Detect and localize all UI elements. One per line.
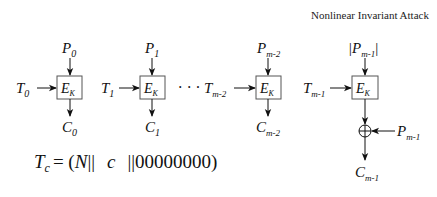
tweak-label: Tm-2 bbox=[204, 80, 227, 99]
block-m-2: Pm-2 Tm-2 EK Cm-2 bbox=[204, 40, 281, 138]
block-0: P0 T0 EK C0 bbox=[16, 40, 82, 138]
tweak-formula: Tc= (N||c||00000000) bbox=[34, 151, 217, 175]
xor-icon bbox=[359, 125, 371, 137]
block-1: P1 T1 EK C1 bbox=[101, 40, 165, 138]
ciphertext-label: C1 bbox=[145, 119, 160, 138]
ciphertext-label: Cm-2 bbox=[256, 119, 281, 138]
diagram-title: Nonlinear Invariant Attack bbox=[311, 9, 429, 21]
ciphertext-label: Cm-1 bbox=[355, 164, 379, 183]
tweak-label: Tm-1 bbox=[303, 80, 325, 99]
block-m-1: |Pm-1| Tm-1 EK Pm-1 Cm-1 bbox=[303, 40, 420, 183]
diagram-canvas: Nonlinear Invariant Attack P0 T0 EK C0 P… bbox=[0, 0, 437, 197]
ellipsis: · · · bbox=[178, 79, 200, 95]
plaintext-label: P1 bbox=[144, 40, 159, 59]
ciphertext-label: C0 bbox=[62, 119, 77, 138]
tweak-label: T1 bbox=[101, 80, 114, 99]
plaintext-label: P0 bbox=[61, 40, 76, 59]
plaintext-label: |Pm-1| bbox=[348, 40, 378, 59]
xor-input-label: Pm-1 bbox=[396, 123, 420, 142]
plaintext-label: Pm-2 bbox=[256, 40, 281, 59]
tweak-label: T0 bbox=[16, 80, 29, 99]
